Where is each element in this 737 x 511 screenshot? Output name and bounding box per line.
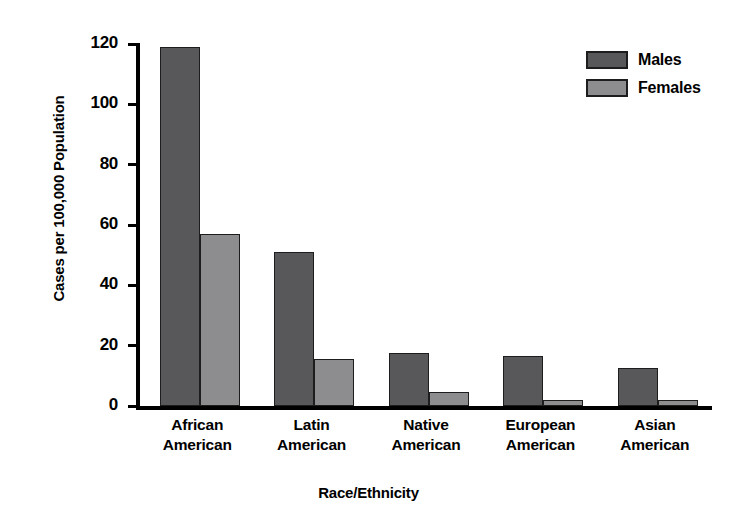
x-category-label: LatinAmerican bbox=[247, 415, 377, 455]
legend-item-females: Females bbox=[586, 76, 701, 100]
y-tick-label: 120 bbox=[62, 33, 118, 53]
x-category-label-line2: American bbox=[590, 435, 720, 455]
bar-chart: Cases per 100,000 Population 02040608010… bbox=[0, 0, 737, 511]
legend-label-males: Males bbox=[638, 51, 681, 69]
bar-males-2 bbox=[389, 353, 429, 406]
x-category-label-line2: American bbox=[247, 435, 377, 455]
y-tick-label: 60 bbox=[62, 214, 118, 234]
x-category-label: EuropeanAmerican bbox=[475, 415, 605, 455]
bar-group bbox=[140, 40, 254, 406]
x-axis-line bbox=[136, 406, 712, 410]
legend-item-males: Males bbox=[586, 48, 701, 72]
y-tick-label: 0 bbox=[62, 395, 118, 415]
x-category-label-line1: Native bbox=[403, 416, 448, 433]
legend-swatch-males bbox=[586, 51, 628, 69]
bar-females-3 bbox=[543, 400, 583, 406]
x-category-label-line1: African bbox=[171, 416, 223, 433]
y-tick-label: 80 bbox=[62, 154, 118, 174]
y-tick-mark bbox=[128, 103, 140, 106]
x-category-label-line2: American bbox=[475, 435, 605, 455]
x-category-label: AsianAmerican bbox=[590, 415, 720, 455]
x-category-label-line1: Asian bbox=[634, 416, 675, 433]
bar-females-1 bbox=[314, 359, 354, 406]
y-tick-label: 100 bbox=[62, 93, 118, 113]
x-category-label-line1: Latin bbox=[294, 416, 330, 433]
legend-swatch-females bbox=[586, 79, 628, 97]
bar-males-0 bbox=[160, 47, 200, 406]
y-tick-mark bbox=[128, 405, 140, 408]
bar-group bbox=[254, 40, 368, 406]
bar-males-3 bbox=[503, 356, 543, 406]
y-tick-label: 40 bbox=[62, 274, 118, 294]
y-tick-mark bbox=[128, 284, 140, 287]
bar-group bbox=[369, 40, 483, 406]
y-tick-mark bbox=[128, 163, 140, 166]
bar-females-0 bbox=[200, 234, 240, 406]
bar-males-1 bbox=[274, 252, 314, 406]
y-tick-mark bbox=[128, 344, 140, 347]
bar-group bbox=[483, 40, 597, 406]
bar-males-4 bbox=[618, 368, 658, 406]
x-category-label-line1: European bbox=[505, 416, 575, 433]
legend-label-females: Females bbox=[638, 79, 701, 97]
x-category-label: AfricanAmerican bbox=[132, 415, 262, 455]
chart-legend: MalesFemales bbox=[586, 48, 701, 104]
y-tick-label: 20 bbox=[62, 335, 118, 355]
x-axis-title: Race/Ethnicity bbox=[0, 484, 737, 501]
y-tick-mark bbox=[128, 224, 140, 227]
y-tick-mark bbox=[128, 43, 140, 46]
x-category-label-line2: American bbox=[361, 435, 491, 455]
x-category-label: NativeAmerican bbox=[361, 415, 491, 455]
bar-females-2 bbox=[429, 392, 469, 406]
bar-females-4 bbox=[658, 400, 698, 406]
x-category-label-line2: American bbox=[132, 435, 262, 455]
